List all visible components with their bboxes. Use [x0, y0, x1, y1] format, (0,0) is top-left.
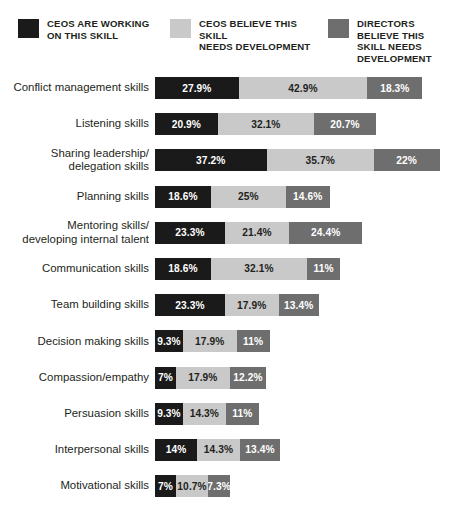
- stacked-bar: 37.2%35.7%22%: [155, 149, 440, 171]
- bar-segment-series-2: 32.1%: [218, 113, 314, 135]
- bar-segment-series-2: 17.9%: [225, 294, 279, 316]
- bar-segment-series-3: 11%: [237, 330, 270, 352]
- chart-row: Planning skills18.6%25%14.6%: [0, 181, 458, 213]
- stacked-bar: 7%10.7%7.3%: [155, 475, 230, 497]
- legend-item-directors-believe: Directors believe this skill needs devel…: [328, 18, 450, 64]
- stacked-bar: 7%17.9%12.2%: [155, 367, 266, 389]
- legend-label-directors-believe: Directors believe this skill needs devel…: [357, 18, 450, 64]
- bar-segment-series-1: 18.6%: [155, 258, 211, 280]
- bar-segment-series-3: 13.4%: [240, 439, 280, 461]
- bar-value-label: 18.6%: [168, 191, 197, 202]
- bar-segment-series-3: 18.3%: [367, 77, 422, 99]
- bar-segment-series-3: 22%: [374, 149, 440, 171]
- bar-segment-series-1: 23.3%: [155, 222, 225, 244]
- legend-swatch-ceos-believe: [170, 19, 191, 38]
- bar-value-label: 7%: [158, 481, 173, 492]
- bar-segment-series-3: 11%: [307, 258, 340, 280]
- bar-value-label: 22%: [396, 155, 417, 166]
- bar-segment-series-2: 25%: [211, 186, 286, 208]
- bar-value-label: 25%: [238, 191, 259, 202]
- bar-value-label: 24.4%: [311, 227, 340, 238]
- bar-value-label: 21.4%: [242, 227, 271, 238]
- stacked-bar: 9.3%17.9%11%: [155, 330, 270, 352]
- chart-row: Motivational skills7%10.7%7.3%: [0, 470, 458, 502]
- bar-value-label: 9.3%: [157, 408, 181, 419]
- legend-label-ceos-working: CEOs are working on this skill: [47, 18, 149, 41]
- legend-item-ceos-working: CEOs are working on this skill: [18, 18, 170, 41]
- bar-value-label: 14%: [166, 444, 187, 455]
- bar-segment-series-3: 24.4%: [289, 222, 362, 244]
- bar-segment-series-1: 20.9%: [155, 113, 218, 135]
- bar-segment-series-2: 17.9%: [176, 367, 230, 389]
- bar-segment-series-1: 14%: [155, 439, 197, 461]
- bar-segment-series-2: 14.3%: [197, 439, 240, 461]
- category-label: Conflict management skills: [0, 81, 155, 94]
- bar-segment-series-2: 42.9%: [239, 77, 368, 99]
- chart-row: Listening skills20.9%32.1%20.7%: [0, 108, 458, 140]
- bar-value-label: 12.2%: [233, 372, 262, 383]
- chart-row: Decision making skills9.3%17.9%11%: [0, 325, 458, 357]
- chart-legend: CEOs are working on this skill CEOs beli…: [18, 18, 450, 64]
- stacked-bar: 23.3%17.9%13.4%: [155, 294, 319, 316]
- stacked-bar: 14%14.3%13.4%: [155, 439, 280, 461]
- chart-row: Interpersonal skills14%14.3%13.4%: [0, 434, 458, 466]
- category-label: Communication skills: [0, 262, 155, 275]
- bar-segment-series-1: 18.6%: [155, 186, 211, 208]
- bar-segment-series-1: 9.3%: [155, 403, 183, 425]
- stacked-bar: 20.9%32.1%20.7%: [155, 113, 376, 135]
- legend-item-ceos-believe: CEOs believe this skill needs developmen…: [170, 18, 328, 53]
- bar-value-label: 17.9%: [237, 300, 266, 311]
- bar-segment-series-1: 37.2%: [155, 149, 267, 171]
- stacked-bar: 18.6%32.1%11%: [155, 258, 340, 280]
- bar-value-label: 14.3%: [190, 408, 219, 419]
- bar-segment-series-3: 20.7%: [314, 113, 376, 135]
- bar-value-label: 42.9%: [288, 83, 317, 94]
- bar-segment-series-3: 11%: [226, 403, 259, 425]
- stacked-bar: 9.3%14.3%11%: [155, 403, 259, 425]
- stacked-bar-chart: CEOs are working on this skill CEOs beli…: [0, 0, 458, 522]
- bar-value-label: 23.3%: [175, 227, 204, 238]
- bar-segment-series-3: 13.4%: [279, 294, 319, 316]
- chart-row: Conflict management skills27.9%42.9%18.3…: [0, 72, 458, 104]
- bar-value-label: 18.6%: [168, 263, 197, 274]
- bar-value-label: 32.1%: [251, 119, 280, 130]
- chart-rows: Conflict management skills27.9%42.9%18.3…: [0, 72, 458, 506]
- bar-value-label: 37.2%: [196, 155, 225, 166]
- category-label: Motivational skills: [0, 479, 155, 492]
- bar-value-label: 9.3%: [157, 336, 181, 347]
- bar-value-label: 11%: [243, 336, 263, 347]
- bar-segment-series-2: 35.7%: [267, 149, 374, 171]
- bar-value-label: 7.3%: [208, 481, 230, 492]
- bar-value-label: 27.9%: [182, 83, 211, 94]
- bar-segment-series-3: 12.2%: [230, 367, 267, 389]
- bar-value-label: 7%: [158, 372, 173, 383]
- bar-value-label: 17.9%: [188, 372, 217, 383]
- category-label: Planning skills: [0, 190, 155, 203]
- bar-value-label: 18.3%: [380, 83, 409, 94]
- bar-value-label: 11%: [314, 263, 334, 274]
- chart-row: Mentoring skills/ developing internal ta…: [0, 217, 458, 249]
- chart-row: Team building skills23.3%17.9%13.4%: [0, 289, 458, 321]
- category-label: Mentoring skills/ developing internal ta…: [0, 219, 155, 246]
- bar-value-label: 20.9%: [172, 119, 201, 130]
- bar-value-label: 13.4%: [245, 444, 274, 455]
- bar-segment-series-2: 21.4%: [225, 222, 289, 244]
- bar-value-label: 14.3%: [204, 444, 233, 455]
- bar-value-label: 20.7%: [330, 119, 359, 130]
- stacked-bar: 18.6%25%14.6%: [155, 186, 330, 208]
- bar-value-label: 10.7%: [177, 481, 206, 492]
- bar-segment-series-3: 14.6%: [286, 186, 330, 208]
- bar-segment-series-3: 7.3%: [208, 475, 230, 497]
- bar-value-label: 32.1%: [244, 263, 273, 274]
- category-label: Compassion/empathy: [0, 371, 155, 384]
- bar-segment-series-1: 7%: [155, 475, 176, 497]
- chart-row: Persuasion skills9.3%14.3%11%: [0, 398, 458, 430]
- category-label: Decision making skills: [0, 335, 155, 348]
- category-label: Interpersonal skills: [0, 443, 155, 456]
- bar-value-label: 35.7%: [305, 155, 334, 166]
- legend-label-ceos-believe: CEOs believe this skill needs developmen…: [199, 18, 328, 53]
- bar-value-label: 14.6%: [293, 191, 322, 202]
- bar-segment-series-1: 27.9%: [155, 77, 239, 99]
- chart-row: Sharing leadership/ delegation skills37.…: [0, 144, 458, 176]
- bar-segment-series-2: 10.7%: [176, 475, 208, 497]
